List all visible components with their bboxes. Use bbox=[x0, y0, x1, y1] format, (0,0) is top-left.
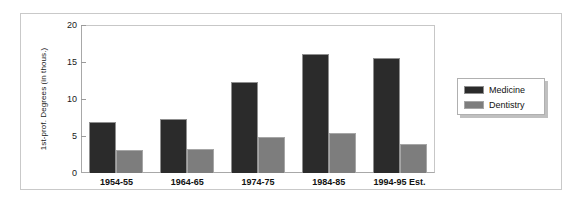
x-tick-label: 1964-65 bbox=[152, 177, 223, 187]
bar-medicine-1954-55 bbox=[89, 122, 116, 173]
dentistry-swatch-icon bbox=[464, 101, 484, 109]
y-tick-label: 15 bbox=[51, 57, 77, 67]
y-axis-tick-labels: 05101520 bbox=[50, 25, 77, 173]
bar-medicine-1984-85 bbox=[302, 54, 329, 173]
y-tick-mark bbox=[81, 25, 86, 26]
legend-label-dentistry: Dentistry bbox=[489, 100, 525, 110]
y-tick-label: 5 bbox=[51, 131, 77, 141]
bar-dentistry-1974-75 bbox=[258, 137, 285, 173]
x-tick-label: 1994-95 Est. bbox=[364, 177, 435, 187]
y-tick-label: 20 bbox=[51, 20, 77, 30]
legend-item-dentistry: Dentistry bbox=[464, 99, 525, 111]
medicine-swatch-icon bbox=[464, 86, 484, 94]
y-tick-label: 10 bbox=[51, 94, 77, 104]
y-tick-mark bbox=[81, 136, 86, 137]
bar-medicine-1994-95-est- bbox=[373, 58, 400, 173]
bar-medicine-1964-65 bbox=[160, 119, 187, 173]
legend-item-medicine: Medicine bbox=[464, 84, 525, 96]
chart-legend: Medicine Dentistry bbox=[457, 78, 545, 115]
bar-medicine-1974-75 bbox=[231, 82, 258, 173]
x-tick-label: 1974-75 bbox=[223, 177, 294, 187]
y-tick-mark bbox=[81, 62, 86, 63]
bar-dentistry-1984-85 bbox=[329, 133, 356, 173]
bar-dentistry-1994-95-est- bbox=[400, 144, 427, 173]
y-tick-mark bbox=[81, 99, 86, 100]
y-tick-label: 0 bbox=[51, 168, 77, 178]
bar-dentistry-1954-55 bbox=[116, 150, 143, 173]
x-tick-label: 1984-85 bbox=[293, 177, 364, 187]
x-tick-label: 1954-55 bbox=[81, 177, 152, 187]
legend-label-medicine: Medicine bbox=[489, 85, 525, 95]
bar-chart-figure: 1st-prof. Degrees (in thous.) 05101520 1… bbox=[0, 0, 582, 205]
bar-dentistry-1964-65 bbox=[187, 149, 214, 173]
